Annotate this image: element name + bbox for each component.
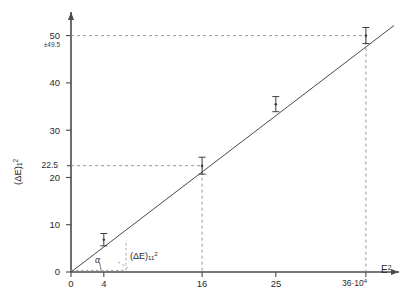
annotation-leader <box>118 262 128 268</box>
x-tick-label-4: 4 <box>84 279 124 289</box>
y-tick-label-0: 0 <box>26 267 60 277</box>
y-axis-title-base: (ΔE) <box>12 166 23 185</box>
x-axis-title-exponent: 2 <box>388 264 392 271</box>
x-tick-label-25: 25 <box>256 279 296 289</box>
data-point-4 <box>100 234 107 246</box>
x-axis-arrowhead <box>391 269 399 275</box>
x-tick-label-16: 16 <box>182 279 222 289</box>
marker-16 <box>201 164 204 167</box>
y-tick-label-22p5: 22.5 <box>24 161 58 170</box>
chart-figure: 50 ±49.5 40 30 22.5 20 10 0 0 4 16 25 36… <box>0 0 410 290</box>
y-tick-label-10: 10 <box>26 220 60 230</box>
guide-lines <box>71 36 366 272</box>
x-axis-title: E2 <box>381 264 391 275</box>
y-tick-label-30: 30 <box>26 126 60 136</box>
y-tick-label-40: 40 <box>26 78 60 88</box>
y-tick-label-50: 50 <box>26 31 60 41</box>
x-axis-title-base: E <box>381 264 388 275</box>
data-point-25 <box>272 97 279 112</box>
angle-alpha-label: α <box>95 255 100 265</box>
y-axis-title-exponent: 2 <box>12 159 19 163</box>
y-tick-label-20: 20 <box>26 173 60 183</box>
x-tick-label-36: 36·104 <box>342 279 367 288</box>
y-axis-arrowhead <box>68 12 74 20</box>
axes-group <box>68 12 399 275</box>
data-point-36 <box>362 28 369 44</box>
fit-line <box>71 26 394 273</box>
y-axis-title-subscript: 1 <box>16 162 23 166</box>
intercept-annotation-base: (ΔE) <box>130 251 148 261</box>
y-axis-title: (ΔE)12 <box>12 159 23 185</box>
y-tick-label-49p5: ±49.5 <box>26 42 60 49</box>
marker-36 <box>365 34 368 37</box>
x-tick-label-36-base: 36·10 <box>342 278 364 288</box>
intercept-annotation: (ΔE)112 <box>130 250 158 261</box>
plot-canvas <box>0 0 410 290</box>
x-tick-label-36-exponent: 4 <box>364 278 367 284</box>
marker-4 <box>103 239 106 242</box>
marker-25 <box>275 103 278 106</box>
intercept-annotation-exponent: 2 <box>154 250 157 257</box>
